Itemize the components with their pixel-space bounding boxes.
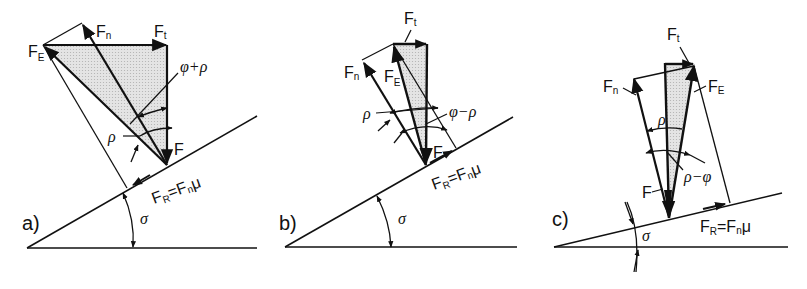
- construction-line: [43, 23, 82, 45]
- angle-pointer: [376, 108, 438, 113]
- label-f: F: [642, 184, 652, 201]
- label-angle-sigma: σ: [398, 210, 407, 227]
- force-fr-arrow: [133, 175, 150, 185]
- panel-label-c: c): [552, 208, 569, 230]
- label-fn: Fn: [96, 23, 111, 41]
- force-f-arrow: [426, 44, 427, 163]
- construction-line: [362, 44, 393, 60]
- label-angle-phi-minus-rho: φ−ρ: [449, 103, 477, 121]
- force-diagram: FE Fn Ft F FR=Fnμ φ+ρ ρ σ a): [0, 0, 807, 289]
- panel-label-b: b): [279, 212, 297, 234]
- panel-a: FE Fn Ft F FR=Fnμ φ+ρ ρ σ a): [22, 23, 257, 248]
- incline-angle-arc: [123, 193, 133, 247]
- label-ft: Ft: [404, 10, 417, 28]
- angle-pointer: [378, 120, 390, 131]
- angle-pointer: [394, 133, 402, 143]
- panel-b: Ft Fn FE F FR=Fnμ φ−ρ ρ σ b): [279, 10, 517, 247]
- label-ft: Ft: [154, 23, 167, 41]
- label-fr: FR=Fnμ: [149, 173, 203, 208]
- label-angle-rho-minus-phi: ρ−φ: [683, 168, 711, 186]
- label-leader: [623, 88, 636, 95]
- label-fe: FE: [28, 43, 45, 63]
- panel-label-a: a): [22, 212, 40, 234]
- label-angle-sigma: σ: [642, 227, 651, 244]
- panel-c: Ft Fn FE F FR=Fnμ ρ−φ ρ σ c): [552, 26, 788, 272]
- label-leader: [405, 30, 411, 42]
- label-angle-rho: ρ: [362, 105, 371, 123]
- label-angle-rho: ρ: [657, 111, 666, 129]
- label-angle-rho: ρ: [107, 128, 116, 146]
- label-fn: Fn: [603, 78, 618, 96]
- label-leader: [680, 47, 689, 63]
- incline-angle-arc: [377, 196, 391, 247]
- label-f: F: [433, 144, 443, 161]
- label-angle-phi-plus-rho: φ+ρ: [180, 58, 208, 76]
- label-fe: FE: [708, 78, 725, 96]
- label-fe: FE: [384, 68, 401, 88]
- label-angle-sigma: σ: [140, 210, 149, 227]
- label-fr: FR=Fnμ: [700, 218, 751, 237]
- label-f: F: [174, 141, 184, 158]
- label-fn: Fn: [344, 64, 359, 82]
- angle-pointer: [690, 155, 705, 163]
- label-fr: FR=Fnμ: [429, 159, 483, 194]
- label-ft: Ft: [667, 26, 680, 44]
- angle-pointer: [131, 145, 138, 162]
